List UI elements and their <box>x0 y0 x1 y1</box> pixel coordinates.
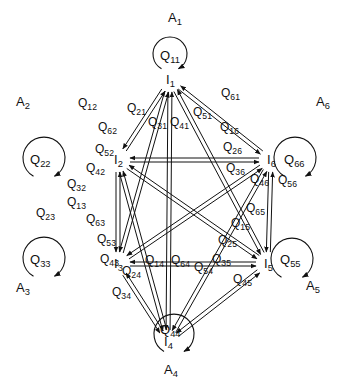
edge-arrow <box>119 172 163 331</box>
self-flow-label-i3: Q33 <box>30 252 51 269</box>
edge-label-q61: Q61 <box>221 86 240 102</box>
node-label-i1: I1 <box>166 72 175 89</box>
edge-label-q43: Q43 <box>100 252 119 268</box>
self-loop-i5 <box>271 238 313 277</box>
self-flow-label-i1: Q11 <box>160 48 180 65</box>
edge-arrow <box>270 172 272 252</box>
area-label-i4: A4 <box>164 362 178 379</box>
edge-label-q25: Q25 <box>218 233 237 249</box>
edge-label-q34: Q34 <box>112 285 131 301</box>
edge-label-q51: Q51 <box>193 105 212 121</box>
edge-arrow <box>123 171 167 330</box>
edge-label-q26: Q26 <box>223 140 242 156</box>
edge-label-q52: Q52 <box>95 142 114 158</box>
edge-label-q46: Q46 <box>250 172 269 188</box>
edge-label-q13: Q13 <box>67 195 86 211</box>
area-label-i3: A3 <box>16 280 30 297</box>
area-label-i6: A6 <box>316 94 330 111</box>
edge-label-q41: Q41 <box>170 115 189 131</box>
area-label-i2: A2 <box>16 94 30 111</box>
edge-arrow <box>127 168 257 258</box>
labels: I1Q11A1I2Q22A2I3Q33A3I4Q44A4I5Q55A5I6Q66… <box>16 10 330 379</box>
flow-diagram: I1Q11A1I2Q22A2I3Q33A3I4Q44A4I5Q55A5I6Q66… <box>0 0 337 386</box>
edge-label-q32: Q32 <box>67 177 86 193</box>
edge-label-q64: Q64 <box>171 253 190 269</box>
edge-label-q45: Q45 <box>233 272 252 288</box>
area-label-i5: A5 <box>306 278 320 295</box>
edge-label-q12: Q12 <box>78 96 97 112</box>
edge-label-q16: Q16 <box>220 120 239 136</box>
self-loop-i6 <box>274 137 316 176</box>
edge-label-q42: Q42 <box>86 161 105 177</box>
edge-label-q35: Q35 <box>212 252 231 268</box>
node-label-i2: I2 <box>114 152 123 169</box>
edge-label-q36: Q36 <box>226 161 245 177</box>
edge-label-q62: Q62 <box>98 120 117 136</box>
edge-label-q65: Q65 <box>246 201 265 217</box>
edge-label-q14: Q14 <box>145 253 164 269</box>
edge-label-q21: Q21 <box>127 101 146 117</box>
edge-label-q56: Q56 <box>278 173 297 189</box>
edge-arrow <box>129 168 262 259</box>
edge-label-q63: Q63 <box>86 212 105 228</box>
edge-label-q23: Q23 <box>36 206 55 222</box>
area-label-i1: A1 <box>168 10 182 27</box>
self-flow-label-i2: Q22 <box>30 152 51 169</box>
edge-label-q53: Q53 <box>97 232 116 248</box>
self-flow-label-i6: Q66 <box>284 152 305 169</box>
self-flow-label-i5: Q55 <box>280 252 301 269</box>
